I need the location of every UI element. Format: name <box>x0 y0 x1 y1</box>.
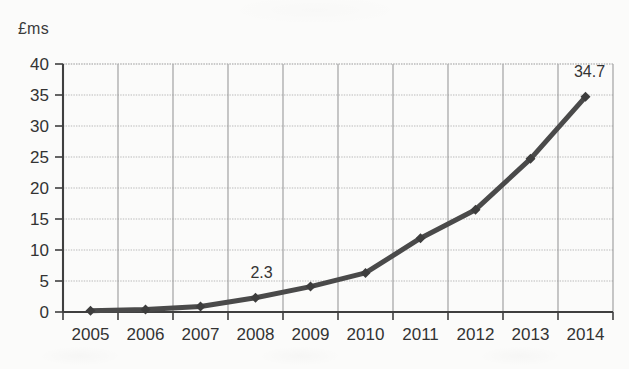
y-tick-label: 40 <box>30 55 49 74</box>
x-axis-tick-labels: 2005200620072008200920102011201220132014 <box>72 325 605 344</box>
y-tick-label: 15 <box>30 210 49 229</box>
plot-area: 0510152025303540 20052006200720082009201… <box>0 0 629 369</box>
y-axis-ticks <box>55 64 63 312</box>
data-point-marker <box>251 293 261 303</box>
data-point-label: 34.7 <box>574 63 605 80</box>
x-tick-label: 2013 <box>512 325 550 344</box>
y-axis-tick-labels: 0510152025303540 <box>30 55 49 322</box>
x-tick-label: 2009 <box>292 325 330 344</box>
x-gridlines <box>63 64 613 312</box>
data-point-marker <box>306 282 316 292</box>
x-tick-label: 2010 <box>347 325 385 344</box>
line-chart-figure: £ms 0510152025303540 2005200620072008200… <box>0 0 629 369</box>
data-point-marker <box>196 301 206 311</box>
x-tick-label: 2007 <box>182 325 220 344</box>
x-tick-label: 2006 <box>127 325 165 344</box>
y-tick-label: 20 <box>30 179 49 198</box>
x-tick-label: 2012 <box>457 325 495 344</box>
x-tick-label: 2011 <box>402 325 439 344</box>
y-tick-label: 5 <box>40 272 49 291</box>
data-point-marker <box>86 306 96 316</box>
y-tick-label: 25 <box>30 148 49 167</box>
y-tick-label: 10 <box>30 241 49 260</box>
y-tick-label: 0 <box>40 303 49 322</box>
y-tick-label: 35 <box>30 86 49 105</box>
x-tick-label: 2005 <box>72 325 110 344</box>
x-tick-label: 2014 <box>567 325 605 344</box>
data-point-labels: 2.334.7 <box>250 63 605 281</box>
data-point-label: 2.3 <box>250 264 272 281</box>
x-tick-label: 2008 <box>237 325 275 344</box>
y-tick-label: 30 <box>30 117 49 136</box>
